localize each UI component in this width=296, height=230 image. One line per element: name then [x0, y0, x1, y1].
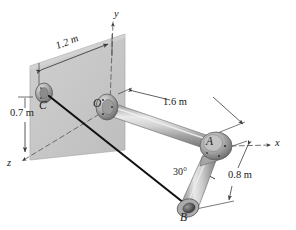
- statics-pipe-diagram: 1.2 m 0.7 m 1.6 m 0.8 m 30° C O A B y x …: [0, 0, 296, 230]
- dimension-label-0-8m: 0.8 m: [228, 169, 252, 180]
- point-label-O: O: [93, 97, 101, 109]
- point-label-A: A: [206, 135, 213, 147]
- x-axis-line: [231, 145, 271, 146]
- axis-label-x: x: [275, 137, 280, 148]
- point-label-B: B: [180, 211, 187, 223]
- dimension-label-0-7m: 0.7 m: [10, 107, 34, 118]
- diagram-canvas: [0, 0, 296, 230]
- axis-label-y: y: [114, 8, 119, 19]
- angle-label-30: 30°: [173, 166, 187, 177]
- point-label-C: C: [39, 99, 47, 111]
- elbow-joint-A: [200, 132, 232, 160]
- dimension-label-1-6m: 1.6 m: [163, 96, 187, 107]
- axis-label-z: z: [7, 157, 11, 168]
